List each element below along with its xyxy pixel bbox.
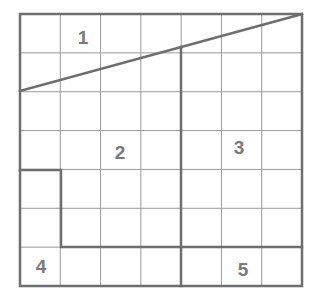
outer-border [20,14,302,286]
grid-diagram: 12345 [0,0,322,303]
grid-lines [20,14,302,286]
region-label-5: 5 [238,259,249,280]
region-label-2: 2 [115,142,126,163]
region-label-1: 1 [78,27,89,48]
region-boundaries [20,14,302,286]
region-label-3: 3 [234,137,245,158]
region-label-4: 4 [36,256,47,277]
